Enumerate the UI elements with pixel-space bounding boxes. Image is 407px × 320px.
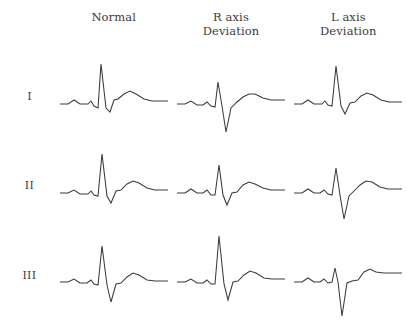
ecg-waveform-lead-2-r-axis-deviation	[175, 143, 287, 229]
ecg-waveform-lead-1-normal	[58, 54, 170, 140]
ecg-grid: Normal R axis Deviation L axis Deviation…	[0, 0, 407, 320]
ecg-waveform-lead-3-l-axis-deviation	[292, 232, 404, 318]
ecg-trace-lead-2-r-axis-deviation	[172, 141, 289, 230]
row-label-lead-1: I	[0, 52, 55, 141]
ecg-polyline	[60, 246, 168, 302]
column-header-l-axis-deviation: L axis Deviation	[290, 0, 407, 52]
ecg-polyline	[294, 66, 402, 114]
ecg-trace-lead-3-r-axis-deviation	[172, 231, 289, 320]
ecg-trace-lead-2-l-axis-deviation	[290, 141, 407, 230]
row-label-lead-3: III	[0, 231, 55, 320]
column-header-l-axis-line1: L axis	[320, 11, 377, 25]
ecg-waveform-lead-1-l-axis-deviation	[292, 54, 404, 140]
ecg-polyline	[60, 154, 168, 203]
column-header-normal-line1: Normal	[91, 11, 136, 25]
ecg-trace-lead-3-normal	[55, 231, 172, 320]
ecg-polyline	[177, 165, 285, 205]
ecg-trace-lead-1-normal	[55, 52, 172, 141]
ecg-polyline	[177, 82, 285, 132]
row-label-lead-2: II	[0, 141, 55, 230]
ecg-trace-lead-1-l-axis-deviation	[290, 52, 407, 141]
column-header-r-axis-line1: R axis	[203, 11, 260, 25]
ecg-polyline	[177, 236, 285, 300]
ecg-trace-lead-2-normal	[55, 141, 172, 230]
grid-corner-spacer	[0, 0, 55, 52]
column-header-r-axis-line2: Deviation	[203, 25, 260, 39]
ecg-trace-lead-1-r-axis-deviation	[172, 52, 289, 141]
ecg-polyline	[60, 64, 168, 112]
ecg-trace-lead-3-l-axis-deviation	[290, 231, 407, 320]
ecg-axis-deviation-figure: Normal R axis Deviation L axis Deviation…	[0, 0, 407, 320]
column-header-normal: Normal	[55, 0, 172, 52]
ecg-waveform-lead-1-r-axis-deviation	[175, 54, 287, 140]
ecg-waveform-lead-3-normal	[58, 232, 170, 318]
ecg-waveform-lead-2-normal	[58, 143, 170, 229]
ecg-waveform-lead-2-l-axis-deviation	[292, 143, 404, 229]
ecg-waveform-lead-3-r-axis-deviation	[175, 232, 287, 318]
ecg-polyline	[294, 268, 402, 316]
column-header-l-axis-line2: Deviation	[320, 25, 377, 39]
ecg-polyline	[294, 168, 402, 219]
column-header-r-axis-deviation: R axis Deviation	[172, 0, 289, 52]
